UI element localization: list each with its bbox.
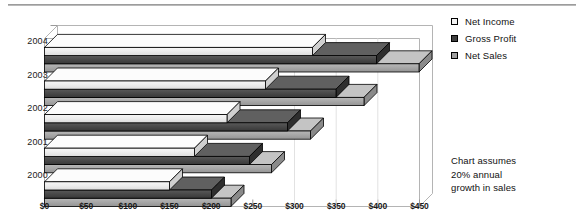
bar-2000-net-income	[45, 169, 183, 190]
legend-item-net-sales: Net Sales	[451, 48, 516, 62]
y-axis-label-2003: 2003	[14, 70, 48, 80]
legend-label-gross-profit: Gross Profit	[465, 33, 516, 44]
bar-2002-net-income	[45, 102, 241, 123]
x-axis-tick-150: $150	[150, 201, 190, 211]
bar-group-2003	[45, 68, 378, 106]
bar-2004-net-income	[45, 34, 326, 55]
x-axis-tick-100: $100	[108, 201, 148, 211]
bar-2003-net-income	[45, 68, 279, 89]
annotation-line-3: growth in sales	[451, 181, 579, 195]
legend-item-gross-profit: Gross Profit	[451, 31, 516, 45]
y-axis-label-2002: 2002	[14, 103, 48, 113]
legend-swatch-net-sales	[451, 52, 458, 59]
x-axis-tick-50: $50	[66, 201, 106, 211]
chart-legend: Net Income Gross Profit Net Sales	[451, 14, 516, 65]
y-axis-label-2001: 2001	[14, 137, 48, 147]
x-axis-tick-300: $300	[275, 201, 315, 211]
legend-label-net-income: Net Income	[465, 16, 515, 27]
x-axis-tick-350: $350	[316, 201, 356, 211]
chart-annotation: Chart assumes 20% annual growth in sales	[451, 154, 579, 195]
x-axis-tick-250: $250	[233, 201, 273, 211]
x-axis-tick-400: $400	[358, 201, 398, 211]
bar-group-2004	[45, 34, 433, 72]
annotation-line-1: Chart assumes	[451, 154, 579, 168]
y-axis-label-2000: 2000	[14, 170, 48, 180]
legend-label-net-sales: Net Sales	[465, 50, 507, 61]
x-axis-tick-0: $0	[25, 201, 65, 211]
legend-swatch-gross-profit	[451, 35, 458, 42]
x-axis-tick-200: $200	[191, 201, 231, 211]
bar-group-2001	[45, 135, 285, 173]
legend-item-net-income: Net Income	[451, 14, 516, 28]
y-axis-label-2004: 2004	[14, 36, 48, 46]
chart-figure: 2004 2003 2002 2001 2000 $0 $50 $100 $15…	[0, 0, 584, 224]
legend-swatch-net-income	[451, 18, 458, 25]
bar-2001-net-income	[45, 135, 208, 156]
bar-group-2002	[45, 102, 324, 140]
x-axis-tick-450: $450	[400, 201, 440, 211]
annotation-line-2: 20% annual	[451, 168, 579, 182]
